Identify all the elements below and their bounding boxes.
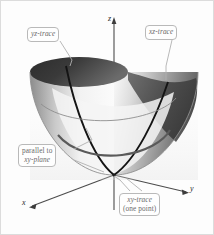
callout-parallel-xy-plane[interactable]: parallel to xy-plane [18, 144, 56, 167]
callout-xz-trace[interactable]: xz-trace [145, 25, 177, 40]
x-axis-label: x [22, 198, 26, 207]
top-rim-interior [30, 57, 128, 87]
callout-parallel-line2: xy-plane [24, 155, 50, 164]
y-axis-label: y [190, 184, 194, 193]
callout-yz-trace[interactable]: yz-trace [27, 27, 59, 42]
figure-canvas: yz-trace xz-trace parallel to xy-plane x… [0, 0, 214, 235]
callout-yz-trace-label: yz-trace [31, 29, 55, 38]
z-axis-label: z [108, 14, 111, 23]
callout-xz-trace-label: xz-trace [149, 27, 173, 36]
callout-xy-trace-line2: (one point) [123, 204, 156, 213]
callout-xy-trace[interactable]: xy-trace (one point) [119, 193, 160, 216]
